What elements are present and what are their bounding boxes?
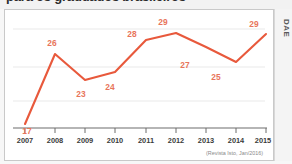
data-label-2009: 23 — [76, 89, 86, 99]
data-label-2011: 28 — [127, 29, 137, 39]
x-label-8: 2015 — [255, 136, 271, 145]
data-label-2015: 29 — [249, 19, 259, 29]
headline-text: para os graduados brasileiros — [6, 0, 186, 4]
headline-strip: para os graduados brasileiros — [0, 0, 292, 9]
x-label-5: 2012 — [168, 136, 184, 145]
data-label-2012: 29 — [158, 17, 168, 27]
data-label-2007: 17 — [22, 126, 32, 136]
data-label-2014: 25 — [211, 72, 221, 82]
chart-card: 2007 2008 2009 2010 2011 2012 2013 2014 … — [4, 9, 274, 161]
x-axis — [13, 128, 267, 133]
rail-tag-label: DAE — [274, 19, 291, 33]
x-label-2: 2009 — [77, 136, 93, 145]
chart-page: para os graduados brasileiros — [0, 0, 292, 164]
data-label-2013: 27 — [180, 60, 190, 70]
right-rail: DAE — [274, 9, 292, 161]
data-labels: 17 26 23 24 28 29 27 25 29 — [22, 17, 259, 136]
source-note: (Revista Isto, Jan/2016) — [206, 150, 263, 156]
series-line-valor — [25, 33, 266, 124]
data-label-2010: 24 — [105, 82, 115, 92]
data-label-2008: 26 — [47, 38, 57, 48]
line-chart: 2007 2008 2009 2010 2011 2012 2013 2014 … — [5, 10, 273, 160]
x-label-0: 2007 — [17, 136, 33, 145]
x-label-6: 2013 — [198, 136, 214, 145]
x-label-7: 2014 — [228, 136, 245, 145]
x-tick-labels: 2007 2008 2009 2010 2011 2012 2013 2014 … — [17, 136, 271, 145]
series-path-group — [25, 33, 266, 124]
x-label-4: 2011 — [138, 136, 154, 145]
x-label-1: 2008 — [47, 136, 63, 145]
x-label-3: 2010 — [107, 136, 123, 145]
chart-svg: 2007 2008 2009 2010 2011 2012 2013 2014 … — [5, 10, 273, 160]
